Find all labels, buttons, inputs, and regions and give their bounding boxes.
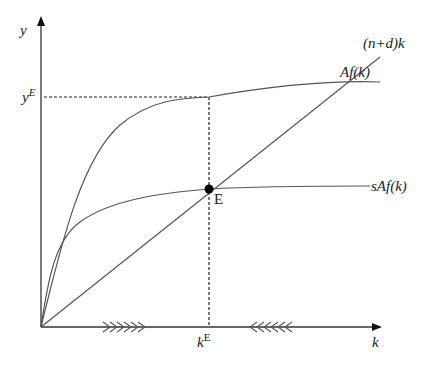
y-equilibrium-label: yE xyxy=(20,86,36,105)
equilibrium-label: E xyxy=(214,191,223,207)
break-even-line-label: (n+d)k xyxy=(363,35,405,52)
y-axis-arrow-icon xyxy=(37,16,45,26)
production-curve xyxy=(41,82,380,327)
solow-diagram: y k yE kE E Af(k) sAf(k) (n+d)k xyxy=(0,0,429,367)
savings-curve-label: sAf(k) xyxy=(371,178,407,195)
x-axis-label: k xyxy=(372,334,379,350)
x-axis-arrow-icon xyxy=(372,323,382,331)
equilibrium-point xyxy=(205,185,214,194)
production-curve-label: Af(k) xyxy=(339,64,370,81)
chevrons-left-icon xyxy=(250,322,292,332)
chevrons-right-icon xyxy=(103,322,145,332)
k-equilibrium-label: kE xyxy=(197,331,211,350)
savings-curve xyxy=(41,186,370,327)
y-axis-label: y xyxy=(18,22,27,38)
